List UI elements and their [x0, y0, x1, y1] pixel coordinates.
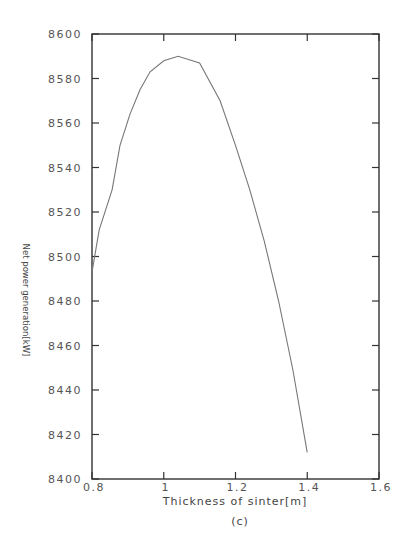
x-tick-label: 0.8 [83, 481, 105, 494]
y-tick-label: 8520 [48, 206, 82, 219]
y-tick-label: 8600 [48, 28, 82, 41]
x-axis-label: Thickness of sinter[m] [162, 495, 308, 508]
figure-caption: (c) [231, 515, 249, 528]
y-tick-label: 8560 [48, 117, 82, 130]
y-tick-label: 8580 [48, 73, 82, 86]
y-tick-label: 8480 [48, 295, 82, 308]
x-tick-label: 1.6 [370, 481, 392, 494]
y-tick-label: 8540 [48, 162, 82, 175]
y-tick-label: 8420 [48, 429, 82, 442]
y-tick-label: 8460 [48, 340, 82, 353]
data-line [92, 56, 307, 452]
line-chart: 8400842084408460848085008520854085608580… [0, 0, 408, 553]
y-tick-label: 8400 [48, 473, 82, 486]
x-tick-label: 1 [162, 481, 171, 494]
y-tick-label: 8500 [48, 251, 82, 264]
y-tick-label: 8440 [48, 384, 82, 397]
x-tick-label: 1.2 [227, 481, 249, 494]
y-axis-label: Net power generation[kW] [21, 244, 31, 357]
y-axis-ticks: 8400842084408460848085008520854085608580… [48, 28, 379, 486]
x-axis-ticks: 0.811.21.41.6 [83, 34, 392, 494]
x-tick-label: 1.4 [298, 481, 320, 494]
